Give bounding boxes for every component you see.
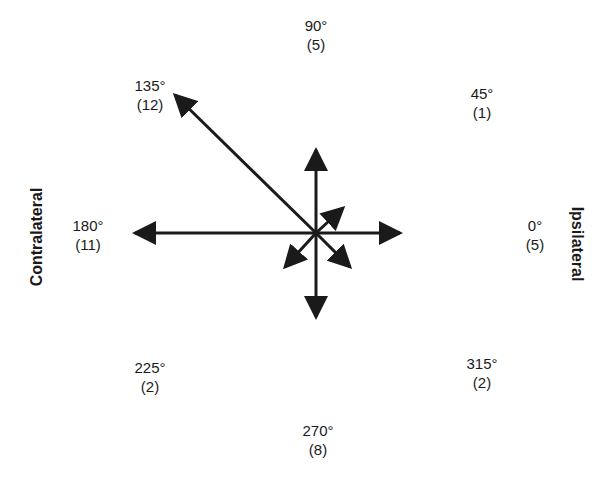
- count-180: (11): [58, 235, 118, 254]
- ipsilateral-label: Ipsilateral: [568, 207, 586, 282]
- arrow-225-deg: [285, 233, 316, 267]
- count-0: (5): [505, 235, 565, 254]
- count-315: (2): [452, 373, 512, 392]
- angle-45: 45°: [452, 84, 512, 103]
- angle-0: 0°: [505, 216, 565, 235]
- label-315: 315° (2): [452, 354, 512, 392]
- count-135: (12): [120, 95, 180, 114]
- angle-90: 90°: [286, 16, 346, 35]
- angle-270: 270°: [288, 421, 348, 440]
- count-45: (1): [452, 103, 512, 122]
- label-0: 0° (5): [505, 216, 565, 254]
- contralateral-label: Contralateral: [28, 188, 46, 287]
- label-270: 270° (8): [288, 421, 348, 459]
- angle-225: 225°: [120, 358, 180, 377]
- arrow-45-deg: [316, 208, 343, 233]
- arrow-315-deg: [316, 233, 350, 267]
- label-135: 135° (12): [120, 76, 180, 114]
- angle-315: 315°: [452, 354, 512, 373]
- count-270: (8): [288, 440, 348, 459]
- arrow-135-deg: [175, 95, 316, 233]
- count-225: (2): [120, 377, 180, 396]
- angle-135: 135°: [120, 76, 180, 95]
- label-180: 180° (11): [58, 216, 118, 254]
- label-90: 90° (5): [286, 16, 346, 54]
- label-225: 225° (2): [120, 358, 180, 396]
- label-45: 45° (1): [452, 84, 512, 122]
- count-90: (5): [286, 35, 346, 54]
- angle-180: 180°: [58, 216, 118, 235]
